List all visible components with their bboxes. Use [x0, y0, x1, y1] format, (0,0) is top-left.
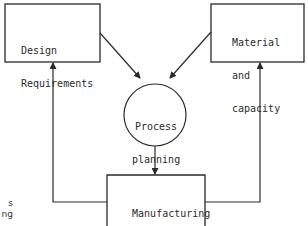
left-fragment-text: s ng: [0, 198, 13, 220]
arrow-design-to-process: [100, 33, 140, 78]
arrow-material-to-process: [170, 32, 211, 78]
manufacturing-text: Manufacturing: [132, 208, 210, 219]
design-requirements-label: Design Requirements: [21, 23, 93, 100]
design-requirements-line2: Requirements: [21, 78, 93, 89]
material-capacity-line1: Material: [232, 37, 280, 48]
left-fragment-line2: ng: [0, 209, 13, 220]
material-capacity-line2: and: [232, 70, 280, 81]
process-planning-line2: planning: [132, 154, 180, 165]
left-fragment-line1: s: [0, 198, 13, 209]
material-capacity-label: Material and capacity: [232, 15, 280, 125]
material-capacity-line3: capacity: [232, 103, 280, 114]
process-planning-line1: Process: [132, 121, 180, 132]
manufacturing-label: Manufacturing: [120, 197, 210, 219]
process-planning-label: Process planning: [132, 99, 180, 176]
design-requirements-line1: Design: [21, 45, 93, 56]
